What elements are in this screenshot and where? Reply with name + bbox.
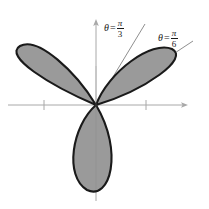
fraction-pi-over-6: π6 [171, 29, 178, 49]
fraction-pi-over-3: π3 [117, 19, 124, 39]
label-theta-pi-over-6: θ=π6 [158, 29, 178, 49]
equals-sign-pi3: = [109, 22, 117, 33]
label-theta-pi-over-3: θ=π3 [104, 19, 124, 39]
upper-right-petal [96, 47, 176, 105]
bottom-petal [73, 105, 111, 192]
polar-rose-figure: θ=π3 θ=π6 [0, 0, 209, 209]
equals-sign-pi6: = [163, 32, 171, 43]
fraction-denominator-pi6: 6 [171, 40, 178, 49]
fraction-numerator-pi6: π [171, 29, 178, 38]
fraction-numerator-pi3: π [117, 19, 124, 28]
upper-left-petal [16, 44, 96, 105]
fraction-denominator-pi3: 3 [117, 30, 124, 39]
